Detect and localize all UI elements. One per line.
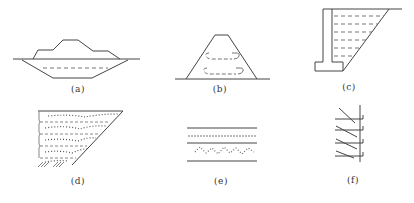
reinforcement-layer-upper [206, 53, 232, 59]
panel-f-diagram [335, 105, 363, 162]
embankment-outline [33, 40, 120, 59]
left-boundary [39, 111, 40, 158]
reinforcement-layer-lower [204, 68, 236, 74]
wall-stem [323, 9, 332, 62]
fill-layers [40, 122, 110, 158]
panel-d-label: (d) [71, 176, 85, 186]
trench-outline [22, 60, 128, 78]
panel-c-diagram [315, 9, 402, 71]
panel-f-label: (f) [347, 175, 359, 185]
gravel-layer [195, 147, 254, 154]
ground-hatch [38, 162, 64, 167]
reinforcement-layer-lower-end [236, 68, 243, 74]
panel-d-diagram [38, 111, 123, 167]
panel-b-diagram [175, 35, 270, 79]
embankment-outline [186, 35, 257, 79]
anchor-rows [335, 108, 363, 158]
reinforcement-layer-upper-end [232, 53, 239, 59]
panel-e-diagram [187, 128, 257, 161]
panel-a-diagram [13, 40, 140, 78]
panel-b-label: (b) [213, 84, 227, 94]
panel-a-label: (a) [71, 84, 85, 94]
slope-face [72, 111, 123, 165]
panel-c-label: (c) [342, 82, 356, 92]
panel-e-label: (e) [214, 176, 228, 186]
figure-canvas [0, 0, 414, 203]
wall-footing [315, 62, 343, 71]
